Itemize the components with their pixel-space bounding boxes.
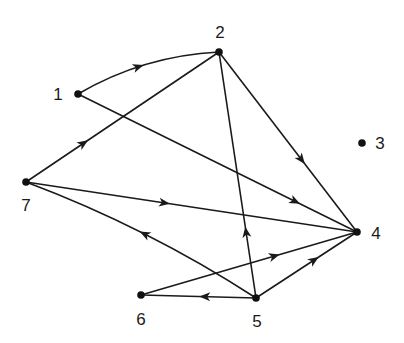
- edge-5-to-2: [219, 52, 256, 298]
- node-2: [215, 48, 223, 56]
- node-label-1: 1: [53, 85, 62, 104]
- edge-6-to-4: [141, 232, 357, 295]
- edge-5-to-4: [256, 232, 357, 298]
- edge-7-to-2: [26, 52, 219, 182]
- node-label-2: 2: [215, 23, 224, 42]
- arrowhead-icon: [268, 250, 281, 262]
- edge-5-to-6: [141, 295, 256, 298]
- node-7: [22, 178, 30, 186]
- node-label-7: 7: [21, 196, 30, 215]
- directed-graph: 1234567: [0, 0, 404, 343]
- node-4: [353, 228, 361, 236]
- graph-edges: [26, 52, 357, 301]
- graph-nodes: 1234567: [21, 23, 384, 331]
- node-label-5: 5: [252, 312, 261, 331]
- arrowhead-icon: [288, 195, 302, 208]
- node-3: [358, 139, 366, 147]
- node-1: [74, 90, 82, 98]
- node-label-4: 4: [371, 224, 380, 243]
- node-5: [252, 294, 260, 302]
- edge-2-to-4: [219, 52, 357, 232]
- arrowhead-icon: [76, 136, 90, 150]
- edge-1-to-2: [78, 52, 219, 94]
- node-label-6: 6: [136, 310, 145, 329]
- node-label-3: 3: [375, 134, 384, 153]
- arrowhead-icon: [295, 153, 309, 167]
- arrowhead-icon: [307, 253, 321, 267]
- node-6: [137, 291, 145, 299]
- arrowhead-icon: [138, 227, 152, 240]
- arrowhead-icon: [132, 61, 145, 73]
